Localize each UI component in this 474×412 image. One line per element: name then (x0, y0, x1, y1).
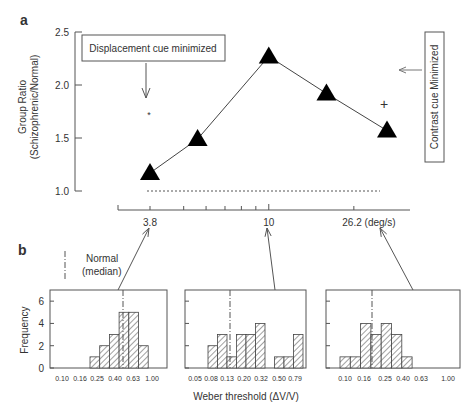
figure: a b 1.01.52.02.5Group Ratio(Schizophreni… (0, 0, 474, 412)
link-arrow (380, 228, 413, 290)
link-arrow (118, 228, 149, 290)
histogram-bar (275, 357, 285, 368)
histogram-bar (237, 335, 247, 368)
data-point-triangle (316, 83, 336, 100)
panel-a-label: a (20, 12, 28, 28)
y-tick-label: 4 (38, 318, 44, 329)
histogram-bar (129, 312, 139, 368)
x-tick-label: 3.8 (143, 217, 157, 228)
x-tick-label: 0.32 (254, 375, 268, 382)
y-tick-label: 2.5 (55, 27, 69, 38)
data-point-triangle (140, 163, 160, 180)
histogram-bar (350, 357, 360, 368)
histogram-bar (294, 335, 304, 368)
histogram-bar (284, 357, 294, 368)
link-arrow-head (380, 228, 387, 237)
y-tick-label: 0 (38, 363, 44, 374)
x-tick-label: 0.40 (396, 375, 410, 382)
x-tick-label: 0.25 (378, 375, 392, 382)
panel-b-label: b (18, 242, 27, 258)
y-axis-label: Group Ratio (17, 80, 28, 134)
x-tick-label: 0.13 (220, 375, 234, 382)
y-tick-label: 1.5 (55, 133, 69, 144)
x-tick-label: 0.40 (108, 375, 122, 382)
histogram-bar (256, 323, 266, 368)
x-tick-label: 0.79 (288, 375, 302, 382)
histogram-bar (208, 346, 218, 368)
legend-median-text: (median) (82, 266, 121, 277)
x-tick-label: 0.16 (357, 375, 371, 382)
x-tick-label: 0.20 (237, 375, 251, 382)
y-tick-label: 2 (38, 341, 44, 352)
weber-axis-label: Weber threshold (ΔV/V) (193, 391, 298, 402)
frequency-axis-label: Frequency (19, 306, 30, 353)
x-tick-label: 1.00 (145, 375, 159, 382)
median-legend: Normal (median) (65, 251, 121, 279)
legend-normal-text: Normal (86, 253, 118, 264)
histogram-right: 0.100.160.250.400.631.00 (326, 228, 460, 382)
x-tick-label: 0.10 (55, 375, 69, 382)
panel-a: 1.01.52.02.5Group Ratio(Schizophrenic/No… (17, 27, 444, 228)
histogram-bar (402, 357, 412, 368)
histogram-bar (109, 335, 119, 368)
x-tick-label: 0.63 (414, 375, 428, 382)
x-tick-label: 0.16 (73, 375, 87, 382)
series-line (150, 56, 387, 173)
x-tick-label: 1.00 (441, 375, 455, 382)
histogram-bar (100, 346, 110, 368)
data-point-triangle (377, 121, 397, 138)
contrast-point: + (380, 96, 388, 112)
y-tick-label: 6 (38, 296, 44, 307)
x-tick-label: 26.2 (deg/s) (342, 217, 395, 228)
x-tick-label: 0.25 (90, 375, 104, 382)
histogram-middle: 0.050.080.130.200.320.500.79 (185, 228, 306, 382)
x-tick-label: 0.10 (338, 375, 352, 382)
histogram-left: 02460.100.160.250.400.631.00 (38, 228, 167, 382)
contrast-annotation-text: Contrast cue Minimized (429, 45, 440, 149)
link-arrow (267, 228, 275, 290)
histogram-bar (392, 335, 402, 368)
x-tick-label: 0.05 (188, 375, 202, 382)
displacement-annotation-text: Displacement cue minimized (89, 43, 216, 54)
displacement-point: * (147, 110, 151, 120)
y-tick-label: 2.0 (55, 80, 69, 91)
histogram-bar (119, 312, 129, 368)
histogram-bar (361, 323, 371, 368)
histogram-bar (139, 346, 149, 368)
histogram-bar (227, 357, 237, 368)
histogram-bar (218, 335, 228, 368)
y-tick-label: 1.0 (55, 186, 69, 197)
x-tick-label: 0.63 (126, 375, 140, 382)
x-tick-label: 10 (263, 217, 275, 228)
histogram-bar (340, 357, 350, 368)
x-tick-label: 0.50 (272, 375, 286, 382)
y-axis-label-2: (Schizophrenic/Normal) (29, 55, 40, 159)
x-tick-label: 0.08 (204, 375, 218, 382)
data-point-triangle (259, 46, 279, 63)
histogram-bar (246, 335, 256, 368)
histogram-bar (90, 357, 100, 368)
histogram-bar (381, 323, 391, 368)
